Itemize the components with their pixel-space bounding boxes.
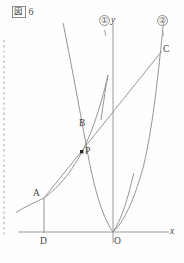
point-label-C: C bbox=[163, 45, 169, 55]
point-marker-P bbox=[80, 150, 83, 153]
point-label-O: O bbox=[114, 237, 121, 247]
leader-line-tag-1 bbox=[105, 30, 106, 36]
parabola-curve-2 bbox=[16, 75, 108, 213]
chord-line-ABC bbox=[44, 52, 162, 199]
point-label-B: B bbox=[79, 119, 85, 129]
curve-tag-2: ② bbox=[157, 15, 168, 26]
point-label-A: A bbox=[33, 189, 40, 199]
curve-tag-1: ① bbox=[99, 15, 110, 26]
geometry-drawing bbox=[0, 0, 184, 263]
point-label-D: D bbox=[40, 237, 47, 247]
y-axis-label: y bbox=[111, 16, 115, 26]
x-axis-label: x bbox=[170, 227, 174, 237]
parabola-curve-1 bbox=[63, 23, 134, 232]
parabola-curve-2-right-branch bbox=[113, 23, 163, 232]
point-label-P: P bbox=[85, 147, 90, 157]
figure-6-container: 図6 ① ② y x A B C D O P bbox=[0, 0, 184, 263]
